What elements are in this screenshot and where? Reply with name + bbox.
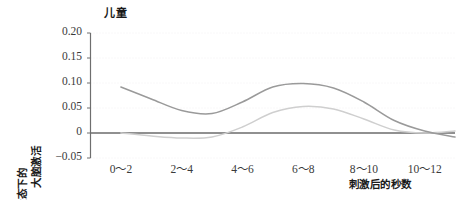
chart-container: 儿童 相对于静息状态下的 大脑激活 刺激后的秒数 0.200.150.100.0… (0, 0, 463, 200)
plot-area (0, 0, 463, 200)
series-line (121, 83, 455, 137)
